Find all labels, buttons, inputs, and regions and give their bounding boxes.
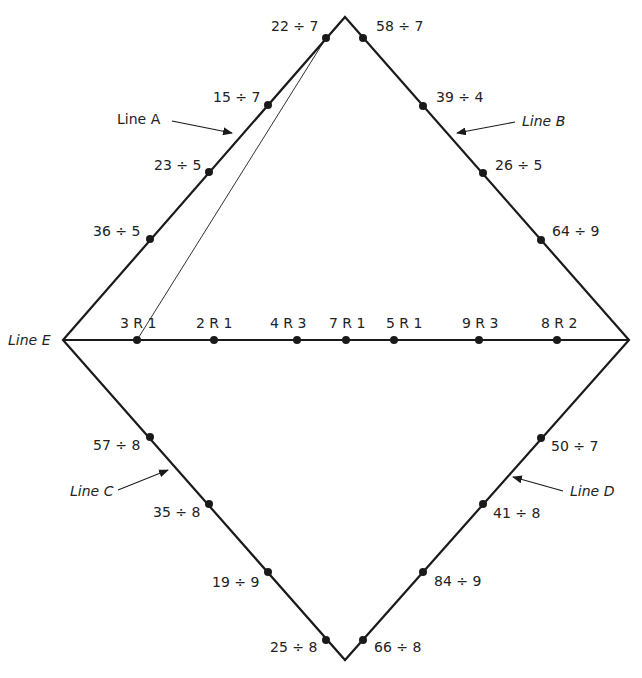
line-c-point-label: 25 ÷ 8 — [270, 639, 317, 655]
point-dot[interactable] — [390, 336, 398, 344]
line-a-label: Line A — [117, 111, 161, 127]
point-dot[interactable] — [479, 500, 487, 508]
point-dot[interactable] — [342, 336, 350, 344]
line-e-point-label: 8 R 2 — [541, 315, 577, 331]
point-dot[interactable] — [475, 336, 483, 344]
point-dot[interactable] — [293, 336, 301, 344]
line-c-label: Line C — [70, 483, 114, 499]
line-e-point-label: 4 R 3 — [270, 315, 306, 331]
arrow-icon — [513, 477, 563, 491]
line-e-point-label: 5 R 1 — [386, 315, 422, 331]
point-dot[interactable] — [322, 34, 330, 42]
line-b-point-label: 64 ÷ 9 — [552, 223, 599, 239]
point-dot[interactable] — [479, 169, 487, 177]
line-c-point-label: 57 ÷ 8 — [93, 437, 140, 453]
point-dot[interactable] — [205, 168, 213, 176]
line-b-point-label: 26 ÷ 5 — [495, 157, 542, 173]
point-dot[interactable] — [359, 636, 367, 644]
line-a-point-label: 22 ÷ 7 — [271, 18, 318, 34]
connector-line[interactable] — [137, 38, 326, 340]
point-dot[interactable] — [264, 568, 272, 576]
line-d-point-label: 41 ÷ 8 — [493, 505, 540, 521]
point-dot[interactable] — [264, 101, 272, 109]
division-diamond-diagram: 22 ÷ 715 ÷ 723 ÷ 536 ÷ 558 ÷ 739 ÷ 426 ÷… — [0, 0, 642, 678]
line-b-point-label: 58 ÷ 7 — [376, 18, 423, 34]
line-e-point-label: 2 R 1 — [196, 315, 232, 331]
line-b-point-label: 39 ÷ 4 — [436, 89, 483, 105]
line-b-label: Line B — [522, 113, 565, 129]
point-dot[interactable] — [537, 434, 545, 442]
line-e-point-label: 9 R 3 — [462, 315, 498, 331]
line-a-point-label: 15 ÷ 7 — [213, 89, 260, 105]
point-dot[interactable] — [553, 336, 561, 344]
point-dot[interactable] — [419, 102, 427, 110]
point-dot[interactable] — [537, 236, 545, 244]
point-dot[interactable] — [322, 636, 330, 644]
line-c-point-label: 35 ÷ 8 — [153, 504, 200, 520]
point-dot[interactable] — [146, 433, 154, 441]
line-d-label: Line D — [570, 483, 615, 499]
line-d-point-label: 66 ÷ 8 — [374, 639, 421, 655]
line-a-point-label: 23 ÷ 5 — [154, 157, 201, 173]
line-d-point-label: 84 ÷ 9 — [434, 573, 481, 589]
point-dot[interactable] — [133, 336, 141, 344]
line-e-point-label: 3 R 1 — [120, 315, 156, 331]
arrow-icon — [457, 122, 515, 133]
arrow-icon — [172, 121, 232, 133]
arrow-icon — [118, 470, 168, 490]
point-dot[interactable] — [210, 336, 218, 344]
point-dot[interactable] — [205, 500, 213, 508]
line-c-point-label: 19 ÷ 9 — [212, 574, 259, 590]
point-dot[interactable] — [419, 568, 427, 576]
line-e-point-label: 7 R 1 — [329, 315, 365, 331]
point-dot[interactable] — [359, 34, 367, 42]
line-a-point-label: 36 ÷ 5 — [93, 223, 140, 239]
line-d-point-label: 50 ÷ 7 — [551, 438, 598, 454]
point-dot[interactable] — [146, 235, 154, 243]
line-label-arrows — [118, 121, 563, 491]
connector-lines[interactable] — [137, 38, 326, 340]
line-e-label: Line E — [8, 332, 51, 348]
